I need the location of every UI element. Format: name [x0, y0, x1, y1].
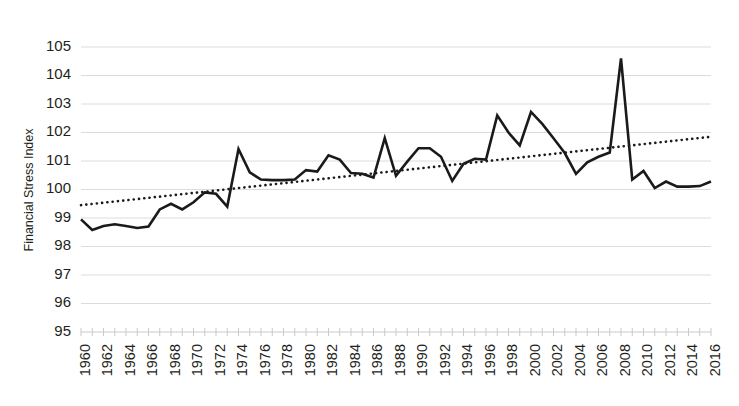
- trend-line-series: [81, 137, 711, 205]
- x-tick-label: 2016: [707, 344, 723, 376]
- x-tick-label: 2004: [572, 344, 588, 376]
- x-tick-label: 1962: [99, 344, 115, 376]
- y-tick-label: 102: [46, 122, 71, 139]
- x-tick-label: 1960: [77, 344, 93, 376]
- y-axis-tick-labels: 9596979899100101102103104105: [46, 37, 71, 339]
- y-tick-label: 103: [46, 94, 71, 111]
- x-tick-label: 1976: [257, 344, 273, 376]
- x-tick-label: 2008: [617, 344, 633, 376]
- x-axis-tick-labels: 1960196219641966196819701972197419761978…: [77, 344, 723, 376]
- y-tick-label: 104: [46, 65, 71, 82]
- y-tick-label: 95: [54, 322, 71, 339]
- x-tick-label: 1966: [144, 344, 160, 376]
- x-tick-label: 1986: [369, 344, 385, 376]
- x-tick-label: 2006: [594, 344, 610, 376]
- chart-container: 9596979899100101102103104105 19601962196…: [0, 0, 739, 406]
- x-tick-label: 1992: [437, 344, 453, 376]
- y-tick-label: 100: [46, 179, 71, 196]
- financial-stress-index-series: [81, 58, 711, 230]
- y-axis-title: Financial Stress Index: [22, 128, 36, 252]
- x-tick-label: 1982: [324, 344, 340, 376]
- x-tick-label: 1964: [122, 344, 138, 376]
- x-tick-label: 2002: [549, 344, 565, 376]
- y-tick-label: 105: [46, 37, 71, 54]
- x-tick-label: 1998: [504, 344, 520, 376]
- x-tick-label: 1974: [234, 344, 250, 376]
- x-tick-label: 1990: [414, 344, 430, 376]
- x-tick-label: 2014: [684, 344, 700, 376]
- y-tick-label: 96: [54, 293, 71, 310]
- x-tick-label: 1972: [212, 344, 228, 376]
- x-tick-label: 1978: [279, 344, 295, 376]
- x-tick-label: 1984: [347, 344, 363, 376]
- x-tick-label: 2010: [639, 344, 655, 376]
- y-tick-label: 98: [54, 236, 71, 253]
- x-tick-label: 1970: [189, 344, 205, 376]
- x-tick-label: 1994: [459, 344, 475, 376]
- x-tick-label: 2000: [527, 344, 543, 376]
- financial-stress-index-chart: 9596979899100101102103104105 19601962196…: [0, 0, 739, 406]
- x-tick-label: 1996: [482, 344, 498, 376]
- y-tick-label: 101: [46, 151, 71, 168]
- y-tick-label: 97: [54, 265, 71, 282]
- x-tick-label: 1988: [392, 344, 408, 376]
- x-tick-label: 1980: [302, 344, 318, 376]
- y-tick-label: 99: [54, 208, 71, 225]
- x-tick-label: 2012: [662, 344, 678, 376]
- x-tick-label: 1968: [167, 344, 183, 376]
